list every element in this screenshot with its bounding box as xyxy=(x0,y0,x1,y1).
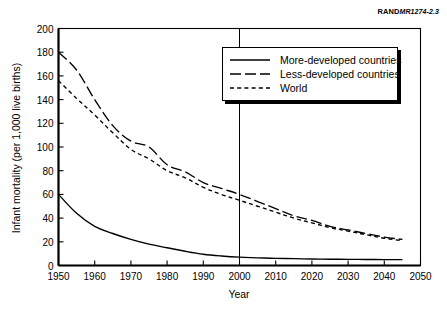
series-line xyxy=(59,81,403,241)
legend-label: More-developed countries xyxy=(280,54,401,66)
x-tick-label: 1960 xyxy=(84,271,106,282)
legend-item: Less-developed countries xyxy=(229,67,389,81)
legend-label: World xyxy=(280,82,307,94)
y-tick-label: 180 xyxy=(37,47,54,58)
legend-line-swatch xyxy=(229,54,271,66)
y-tick-label: 160 xyxy=(37,70,54,81)
y-tick-label: 40 xyxy=(42,213,53,224)
legend-item: More-developed countries xyxy=(229,53,389,67)
source-label: RANDMR1274-2.3 xyxy=(377,7,439,16)
series-line xyxy=(59,194,403,259)
x-tick-label: 1980 xyxy=(156,271,178,282)
legend-line-swatch xyxy=(229,68,271,80)
y-tick-label: 60 xyxy=(42,189,53,200)
chart-legend: More-developed countriesLess-developed c… xyxy=(222,47,398,101)
x-tick-label: 2030 xyxy=(337,271,359,282)
x-tick-label: 1950 xyxy=(47,271,69,282)
source-brand: RAND xyxy=(377,7,399,16)
chart-figure: RANDMR1274-2.3 Infant mortality (per 1,0… xyxy=(0,0,447,310)
x-tick-label: 2010 xyxy=(265,271,287,282)
y-tick-label: 80 xyxy=(42,165,53,176)
y-tick-label: 0 xyxy=(48,260,54,271)
x-tick-label: 1990 xyxy=(192,271,214,282)
x-tick-label: 2050 xyxy=(409,271,431,282)
x-tick-label: 2040 xyxy=(373,271,395,282)
source-document-number: MR1274-2.3 xyxy=(399,8,439,15)
y-tick-label: 120 xyxy=(37,118,54,129)
y-tick-label: 140 xyxy=(37,94,54,105)
legend-item: World xyxy=(229,81,389,95)
x-tick-label: 1970 xyxy=(120,271,142,282)
x-axis-title: Year xyxy=(58,288,420,300)
legend-line-swatch xyxy=(229,82,271,94)
y-tick-label: 200 xyxy=(37,23,54,34)
y-tick-label: 100 xyxy=(37,142,54,153)
legend-label: Less-developed countries xyxy=(280,68,400,80)
x-tick-label: 2020 xyxy=(301,271,323,282)
x-tick-label: 2000 xyxy=(228,271,250,282)
y-axis-title: Infant mortality (per 1,000 live births) xyxy=(10,28,26,268)
y-tick-label: 20 xyxy=(42,236,53,247)
